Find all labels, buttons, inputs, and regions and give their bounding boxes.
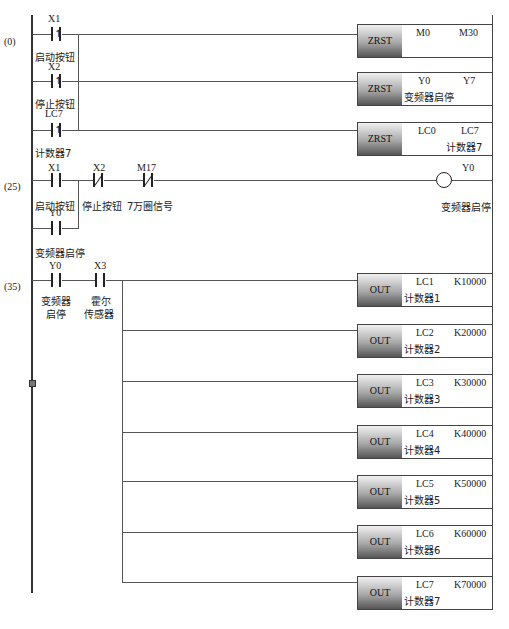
operand-2: K60000 [454,528,486,539]
wire [32,228,51,229]
or-branch [78,180,79,228]
step-number: (25) [4,181,21,192]
operand-2: K20000 [454,327,486,338]
wire [32,81,51,82]
contact-comment: 停止按钮 [82,198,122,213]
operand-comment: 计数器6 [404,542,440,557]
operand-1: LC2 [416,327,434,338]
operand-1: LC4 [416,428,434,439]
operand-1: Y0 [418,75,430,86]
wire [62,81,358,82]
wire [32,180,51,181]
wire [122,381,358,382]
operand-2: K50000 [454,478,486,489]
wire [62,280,95,281]
contact-address: M17 [137,162,156,173]
operand-2: M30 [459,27,478,38]
instruction-box[interactable]: OUT LC6 K60000 计数器6 [357,525,493,559]
operand-2: K30000 [454,377,486,388]
output-branch [122,280,123,582]
instruction-box[interactable]: OUT LC2 K20000 计数器2 [357,324,493,358]
instruction-box[interactable]: ZRST M0 M30 [357,24,493,58]
or-branch [78,34,79,130]
wire [154,180,436,181]
instruction-box[interactable]: OUT LC4 K40000 计数器4 [357,425,493,459]
operand-1: LC5 [416,478,434,489]
wire [32,280,51,281]
wire [104,180,143,181]
wire [122,532,358,533]
instruction-op: OUT [358,577,402,609]
contact-address: X3 [94,260,106,271]
coil-comment: 变频器启停 [441,199,491,214]
contact-comment: 变频器启停 [35,245,85,260]
operand-1: LC0 [418,125,436,136]
operand-2: K10000 [454,276,486,287]
nc-contact-icon[interactable] [142,173,154,187]
wire [78,180,93,181]
instruction-op: OUT [358,375,402,407]
no-contact-icon[interactable] [50,273,62,287]
operand-1: LC1 [416,276,434,287]
operand-comment: 计数器7 [446,139,482,154]
wire [62,34,358,35]
contact-address: Y0 [49,260,61,271]
instruction-op: OUT [358,526,402,558]
left-power-rail [31,15,33,593]
output-coil-icon[interactable] [436,172,452,188]
operand-1: M0 [416,27,430,38]
operand-1: LC6 [416,528,434,539]
operand-2: K70000 [454,579,486,590]
rising-edge-contact-icon[interactable]: ↑ [50,74,62,88]
operand-comment: 计数器7 [404,593,440,608]
operand-comment: 计数器4 [404,442,440,457]
instruction-op: OUT [358,476,402,508]
contact-comment: 计数器7 [35,145,71,160]
instruction-op: OUT [358,325,402,357]
instruction-op: ZRST [358,73,402,105]
operand-comment: 变频器启停 [404,89,454,104]
no-contact-icon[interactable] [50,173,62,187]
contact-address: X1 [48,162,60,173]
wire [122,432,358,433]
wire [62,130,358,131]
operand-1: LC3 [416,377,434,388]
nc-contact-icon[interactable] [92,173,104,187]
operand-2: LC7 [461,125,479,136]
no-contact-icon[interactable] [50,221,62,235]
contact-address: X2 [93,162,105,173]
contact-address: Y0 [49,207,61,218]
coil-address: Y0 [462,162,474,173]
wire [122,481,358,482]
instruction-box[interactable]: ZRST LC0 LC7 计数器7 [357,122,493,156]
no-contact-icon[interactable] [94,273,106,287]
wire [62,228,79,229]
wire [122,330,358,331]
instruction-box[interactable]: ZRST Y0 Y7 变频器启停 [357,72,493,106]
rising-edge-contact-icon[interactable]: ↑ [50,123,62,137]
operand-comment: 计数器3 [404,391,440,406]
operand-2: Y7 [463,75,475,86]
instruction-box[interactable]: OUT LC7 K70000 计数器7 [357,576,493,610]
instruction-box[interactable]: OUT LC5 K50000 计数器5 [357,475,493,509]
operand-1: LC7 [416,579,434,590]
contact-address: LC7 [45,108,63,119]
breakpoint-marker [29,380,36,387]
contact-address: X1 [48,13,60,24]
instruction-op: ZRST [358,123,402,155]
instruction-op: OUT [358,426,402,458]
contact-comment: 传感器 [84,306,114,321]
operand-comment: 计数器2 [404,341,440,356]
instruction-box[interactable]: OUT LC3 K30000 计数器3 [357,374,493,408]
operand-comment: 计数器5 [404,492,440,507]
instruction-box[interactable]: OUT LC1 K10000 计数器1 [357,273,493,307]
rising-edge-contact-icon[interactable]: ↑ [50,27,62,41]
operand-comment: 计数器1 [404,290,440,305]
contact-comment: 7万圈信号 [127,198,173,213]
wire [32,130,51,131]
instruction-op: OUT [358,274,402,306]
step-number: (35) [4,281,21,292]
wire [106,280,358,281]
contact-comment: 启停 [46,306,66,321]
step-number: (0) [4,36,16,47]
